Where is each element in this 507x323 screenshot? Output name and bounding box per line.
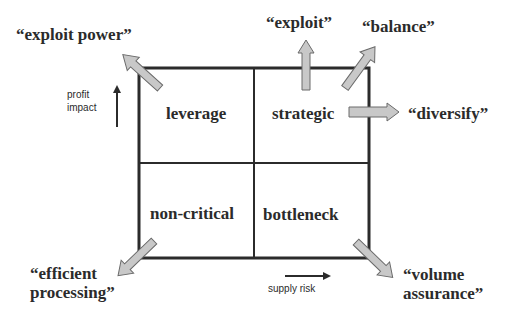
- arrow-exploit-icon: [298, 40, 314, 90]
- strategy-balance: “balance”: [362, 17, 435, 36]
- x-axis-label: supply risk: [268, 282, 315, 295]
- supply-risk-axis-arrow-icon: [285, 272, 331, 280]
- arrow-volume-assurance-icon: [350, 236, 399, 284]
- profit-impact-axis-arrow-icon: [113, 85, 121, 127]
- strategy-efficient-processing: “efficient processing”: [30, 264, 115, 302]
- quadrant-strategic: strategic: [272, 104, 334, 124]
- arrow-diversify-icon: [349, 103, 399, 121]
- strategy-exploit-power: “exploit power”: [16, 25, 132, 44]
- strategy-exploit: “exploit”: [266, 13, 332, 32]
- strategy-efficient-line2: processing”: [30, 283, 115, 302]
- quadrant-non-critical: non-critical: [150, 204, 234, 224]
- strategy-diversify: “diversify”: [408, 104, 488, 123]
- quadrant-leverage: leverage: [166, 104, 226, 124]
- y-axis-label-line1: profit: [67, 88, 96, 101]
- y-axis-label: profit impact: [67, 88, 96, 114]
- quadrant-bottleneck: bottleneck: [263, 205, 339, 225]
- strategy-volume-line2: assurance”: [403, 284, 483, 303]
- y-axis-label-line2: impact: [67, 101, 96, 114]
- matrix-grid: [139, 68, 369, 258]
- strategy-volume-assurance: “volume assurance”: [403, 265, 483, 303]
- strategy-efficient-line1: “efficient: [30, 264, 115, 283]
- arrow-exploit-power-icon: [117, 48, 166, 95]
- strategy-volume-line1: “volume: [403, 265, 483, 284]
